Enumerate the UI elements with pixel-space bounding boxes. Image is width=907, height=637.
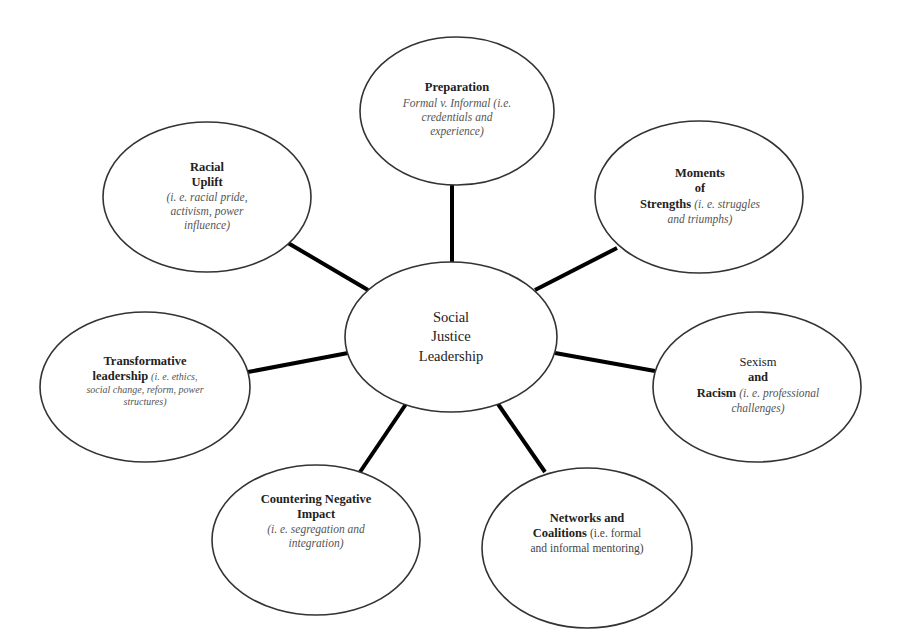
connector-countering-negative-impact: [360, 404, 406, 472]
node-title: Strengths: [640, 197, 691, 211]
connector-moments-of-strengths: [535, 248, 617, 290]
center-title-line: Justice: [431, 327, 470, 347]
node-title: Preparation: [425, 80, 489, 95]
node-description: integration): [289, 536, 344, 550]
node-countering-negative-impact: Countering Negative Impact (i. e. segreg…: [226, 490, 406, 552]
node-description: (i. e. segregation and: [267, 522, 365, 536]
node-title: of: [695, 181, 705, 196]
node-description: and triumphs): [668, 212, 733, 226]
connector-racial-uplift: [288, 243, 368, 290]
node-moments-of-strengths: Moments of Strengths (i. e. struggles an…: [610, 158, 790, 234]
node-description: structures): [124, 396, 167, 408]
node-description: (i. e. professional: [739, 387, 819, 399]
node-description: activism, power: [171, 204, 244, 218]
node-title: and: [748, 370, 768, 385]
node-description: Formal v. Informal (i.e.: [403, 96, 511, 110]
node-title: Impact: [297, 507, 335, 522]
node-racial-uplift: Racial Uplift (i. e. racial pride, activ…: [122, 155, 292, 237]
node-sexism-and-racism: Sexism and Racism (i. e. professional ch…: [668, 347, 848, 423]
node-description: credentials and: [422, 110, 493, 124]
node-description: challenges): [731, 401, 784, 415]
center-node-social-justice-leadership: Social Justice Leadership: [361, 292, 541, 382]
node-title: Racial: [190, 160, 224, 175]
node-title: Networks and: [550, 511, 625, 526]
connector-networks-and-coalitions: [498, 404, 545, 472]
node-description: experience): [430, 124, 484, 138]
node-description: (i. e. ethics,: [151, 371, 197, 382]
node-description: and informal mentoring): [530, 541, 643, 555]
node-description: influence): [184, 218, 230, 232]
connector-sexism-and-racism: [555, 353, 655, 371]
node-description: social change, reform, power: [86, 384, 203, 396]
connector-transformative-leadership: [248, 353, 348, 372]
node-description: (i.e. formal: [590, 527, 641, 539]
node-title: Sexism: [740, 355, 777, 370]
center-title-line: Leadership: [419, 347, 483, 367]
node-title: Racism: [697, 386, 737, 400]
node-title: leadership: [93, 369, 149, 383]
node-transformative-leadership: Transformative leadership (i. e. ethics,…: [52, 348, 238, 414]
node-networks-and-coalitions: Networks and Coalitions (i.e. formal and…: [497, 503, 677, 563]
node-title: Transformative: [103, 354, 186, 369]
node-title: Coalitions: [533, 526, 587, 540]
node-title: Uplift: [191, 175, 222, 190]
node-description: (i. e. racial pride,: [166, 190, 247, 204]
node-preparation: Preparation Formal v. Informal (i.e. cre…: [372, 70, 542, 148]
node-title: Moments: [675, 166, 725, 181]
center-title-line: Social: [433, 308, 469, 328]
node-description: (i. e. struggles: [694, 198, 760, 210]
node-title: Countering Negative: [261, 492, 372, 507]
